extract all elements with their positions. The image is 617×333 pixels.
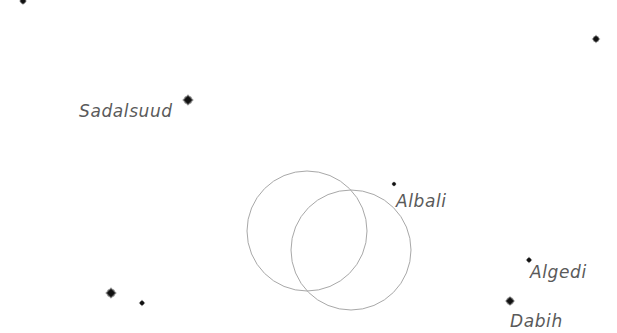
- field-circles: [247, 171, 411, 310]
- star-labels: Sadalsuud Albali Algedi Dabih: [79, 101, 587, 331]
- star-map: Sadalsuud Albali Algedi Dabih: [0, 0, 617, 333]
- field-of-view-1: [247, 171, 367, 291]
- star-icon-unlabeled-top-left: [19, 0, 27, 5]
- star-icon-albali: [391, 181, 397, 187]
- label-sadalsuud: Sadalsuud: [79, 101, 173, 121]
- star-icon-unlabeled-bottom-left-bright: [105, 287, 117, 299]
- label-dabih: Dabih: [510, 311, 563, 331]
- star-icon-unlabeled-top-right: [591, 34, 600, 43]
- field-of-view-2: [291, 190, 411, 310]
- label-algedi: Algedi: [529, 262, 587, 282]
- star-icon-dabih: [505, 296, 516, 307]
- stars: [19, 0, 601, 306]
- star-icon-unlabeled-bottom-left-faint: [139, 300, 146, 307]
- label-albali: Albali: [395, 191, 447, 211]
- star-icon-sadalsuud: [182, 94, 194, 106]
